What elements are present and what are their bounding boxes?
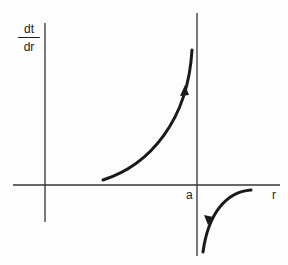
y-label-numerator: dt bbox=[18, 22, 40, 36]
x-axis-label: r bbox=[272, 188, 276, 202]
y-label-denominator: dr bbox=[18, 40, 40, 54]
asymptote-label: a bbox=[186, 188, 193, 202]
fraction-bar bbox=[18, 37, 40, 38]
y-axis-label: dt dr bbox=[18, 22, 40, 54]
left-branch-curve bbox=[103, 50, 192, 180]
diagram-canvas: dt dr a r bbox=[0, 0, 288, 265]
diagram-graphics bbox=[0, 0, 288, 265]
